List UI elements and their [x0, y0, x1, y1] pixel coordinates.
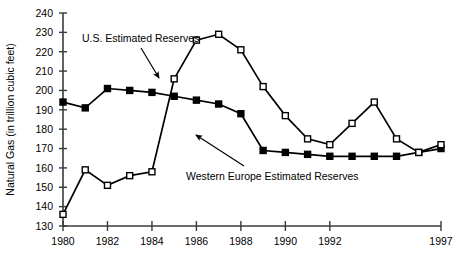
- y-axis-tick-label: 140: [35, 200, 53, 212]
- data-point-marker: [104, 182, 110, 188]
- data-point-marker: [438, 142, 444, 148]
- data-point-marker: [82, 105, 88, 111]
- data-point-marker: [305, 151, 311, 157]
- y-axis-tick-label: 240: [35, 7, 53, 19]
- y-axis-tick-label: 180: [35, 123, 53, 135]
- natural-gas-reserves-chart: 1301401501601701801902002102202302401980…: [0, 0, 461, 258]
- data-point-marker: [127, 173, 133, 179]
- data-point-marker: [104, 86, 110, 92]
- data-point-marker: [305, 136, 311, 142]
- data-point-marker: [260, 147, 266, 153]
- y-axis-tick-label: 160: [35, 162, 53, 174]
- data-point-marker: [394, 153, 400, 159]
- us-estimated-reserves-annotation-arrow: [141, 48, 159, 78]
- data-point-marker: [327, 142, 333, 148]
- x-axis-tick-label: 1980: [51, 235, 75, 247]
- x-axis-tick-label: 1990: [274, 235, 298, 247]
- x-axis-tick-label: 1984: [140, 235, 164, 247]
- data-point-marker: [371, 153, 377, 159]
- x-axis-tick-label: 1997: [429, 235, 453, 247]
- data-point-marker: [394, 136, 400, 142]
- data-point-marker: [260, 84, 266, 90]
- y-axis-tick-label: 150: [35, 181, 53, 193]
- data-point-marker: [282, 113, 288, 119]
- data-point-marker: [149, 89, 155, 95]
- data-point-marker: [327, 153, 333, 159]
- data-point-marker: [216, 101, 222, 107]
- y-axis-tick-label: 170: [35, 142, 53, 154]
- data-point-marker: [82, 167, 88, 173]
- data-point-marker: [171, 76, 177, 82]
- data-point-marker: [193, 97, 199, 103]
- series-line-us: [63, 89, 441, 157]
- western-europe-estimated-reserves-annotation-label: Western Europe Estimated Reserves: [186, 170, 359, 182]
- data-point-marker: [127, 87, 133, 93]
- data-point-marker: [149, 169, 155, 175]
- data-point-marker: [60, 99, 66, 105]
- data-point-marker: [60, 211, 66, 217]
- x-axis-tick-label: 1982: [96, 235, 120, 247]
- western-europe-estimated-reserves-annotation-arrow: [196, 135, 244, 166]
- series-line-western-europe: [63, 34, 441, 214]
- y-axis-title: Natural Gas (in trillion cubic feet): [4, 43, 16, 195]
- data-point-marker: [282, 149, 288, 155]
- data-point-marker: [238, 111, 244, 117]
- x-axis-tick-label: 1988: [229, 235, 253, 247]
- data-point-marker: [349, 120, 355, 126]
- y-axis-tick-label: 190: [35, 104, 53, 116]
- chart-canvas: 1301401501601701801902002102202302401980…: [0, 0, 461, 258]
- data-point-marker: [371, 99, 377, 105]
- x-axis-tick-label: 1986: [185, 235, 209, 247]
- data-point-marker: [349, 153, 355, 159]
- y-axis-tick-label: 130: [35, 220, 53, 232]
- data-point-marker: [216, 31, 222, 37]
- us-estimated-reserves-annotation-label: U.S. Estimated Reserves: [82, 32, 199, 44]
- y-axis-tick-label: 230: [35, 26, 53, 38]
- y-axis-tick-label: 210: [35, 65, 53, 77]
- x-axis-tick-label: 1992: [318, 235, 342, 247]
- data-point-marker: [416, 149, 422, 155]
- data-point-marker: [171, 93, 177, 99]
- y-axis-tick-label: 220: [35, 46, 53, 58]
- data-point-marker: [238, 47, 244, 53]
- y-axis-tick-label: 200: [35, 84, 53, 96]
